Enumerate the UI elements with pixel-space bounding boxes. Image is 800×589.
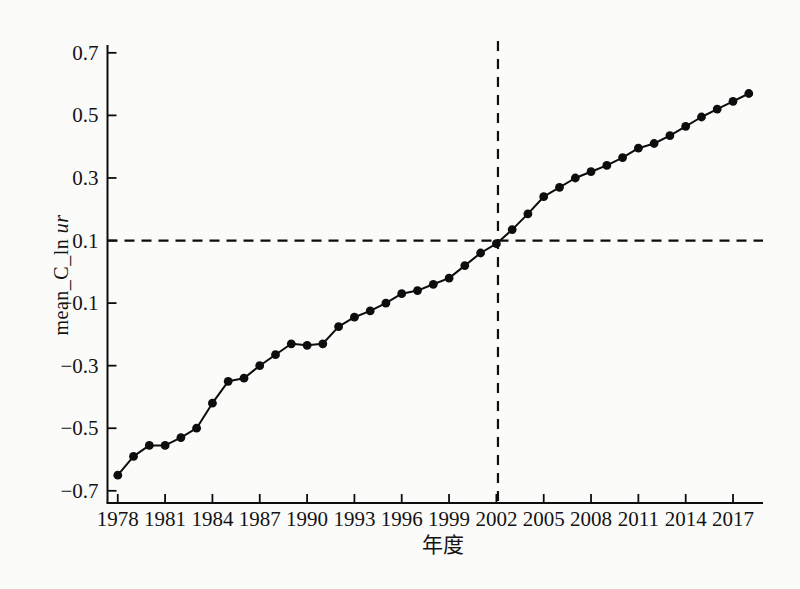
data-point-marker — [271, 350, 280, 359]
data-point-marker — [413, 286, 422, 295]
data-point-marker — [287, 339, 296, 348]
data-point-marker — [508, 225, 517, 234]
data-point-marker — [634, 144, 643, 153]
x-tick-label: 1981 — [144, 507, 186, 531]
data-point-marker — [618, 153, 627, 162]
y-tick-label: 0.5 — [72, 103, 98, 127]
chart-canvas: 1978198119841987199019931996199920022005… — [0, 0, 800, 589]
data-point-marker — [445, 274, 454, 283]
y-tick-label: 0.3 — [72, 166, 98, 190]
y-tick-label: −0.3 — [60, 354, 98, 378]
x-tick-label: 2005 — [523, 507, 565, 531]
data-point-marker — [555, 183, 564, 192]
data-point-marker — [255, 361, 264, 370]
data-point-marker — [602, 161, 611, 170]
x-tick-label: 2011 — [618, 507, 659, 531]
y-axis-title-text: mean_C_ln — [50, 233, 72, 335]
x-tick-label: 1993 — [333, 507, 375, 531]
data-point-marker — [129, 452, 138, 461]
data-point-marker — [334, 322, 343, 331]
y-axis-title: mean_C_ln ur — [50, 214, 73, 335]
y-tick-label: 0.1 — [72, 229, 98, 253]
x-tick-label: 1990 — [286, 507, 328, 531]
data-point-marker — [666, 131, 675, 140]
x-tick-label: 2008 — [570, 507, 612, 531]
figure-page: 1978198119841987199019931996199920022005… — [0, 0, 800, 589]
data-point-marker — [429, 280, 438, 289]
y-tick-label: −0.5 — [60, 416, 98, 440]
line-chart-figure: 1978198119841987199019931996199920022005… — [0, 0, 800, 589]
data-point-marker — [571, 174, 580, 183]
data-point-marker — [713, 105, 722, 114]
data-point-marker — [240, 374, 249, 383]
y-tick-label: 0.7 — [72, 41, 98, 65]
x-axis-title: 年度 — [422, 528, 464, 558]
data-point-marker — [697, 113, 706, 122]
data-point-marker — [208, 399, 217, 408]
data-point-marker — [650, 139, 659, 148]
data-point-marker — [113, 471, 122, 480]
x-tick-label: 1978 — [97, 507, 139, 531]
data-point-marker — [224, 377, 233, 386]
data-point-marker — [587, 167, 596, 176]
y-tick-label: −0.7 — [60, 479, 98, 503]
x-tick-label: 1984 — [191, 507, 234, 531]
y-axis-title-italic: ur — [50, 214, 72, 233]
x-tick-label: 1987 — [239, 507, 281, 531]
data-point-marker — [476, 249, 485, 258]
data-point-marker — [303, 341, 312, 350]
data-point-marker — [177, 433, 186, 442]
x-tick-label: 1996 — [381, 507, 423, 531]
x-tick-label: 2002 — [475, 507, 517, 531]
data-point-marker — [744, 89, 753, 98]
data-point-marker — [161, 441, 170, 450]
data-point-marker — [350, 313, 359, 322]
data-point-marker — [681, 122, 690, 131]
data-point-marker — [318, 339, 327, 348]
data-point-marker — [382, 299, 391, 308]
data-point-marker — [366, 307, 375, 316]
data-point-marker — [524, 210, 533, 219]
x-tick-label: 2014 — [665, 507, 708, 531]
data-point-marker — [397, 289, 406, 298]
x-tick-label: 2017 — [712, 507, 754, 531]
data-point-marker — [492, 239, 501, 248]
data-point-marker — [729, 97, 738, 106]
data-point-marker — [460, 261, 469, 270]
data-point-marker — [539, 192, 548, 201]
data-point-marker — [145, 441, 154, 450]
data-point-marker — [192, 424, 201, 433]
